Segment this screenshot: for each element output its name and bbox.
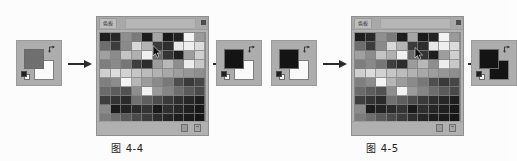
- swatch-cell[interactable]: [184, 78, 195, 87]
- swatch-cell[interactable]: [153, 87, 164, 96]
- swatch-cell[interactable]: [366, 78, 377, 87]
- swatch-cell[interactable]: [184, 51, 195, 60]
- swatch-cell[interactable]: [111, 60, 122, 69]
- swatch-cell[interactable]: [387, 69, 398, 78]
- swatch-cell[interactable]: [408, 87, 419, 96]
- swatch-cell[interactable]: [439, 33, 450, 42]
- swatch-cell[interactable]: [387, 33, 398, 42]
- swatch-cell[interactable]: [142, 78, 153, 87]
- swatch-cell[interactable]: [111, 96, 122, 105]
- swatch-cell[interactable]: [174, 42, 185, 51]
- swatch-cell[interactable]: [387, 78, 398, 87]
- swatch-cell[interactable]: [184, 69, 195, 78]
- swatch-cell[interactable]: [439, 87, 450, 96]
- swatches-panel[interactable]: 色板: [96, 16, 209, 136]
- swatch-cell[interactable]: [376, 51, 387, 60]
- swatch-cell[interactable]: [132, 51, 143, 60]
- swatch-cell[interactable]: [132, 96, 143, 105]
- swatch-cell[interactable]: [408, 78, 419, 87]
- new-swatch-icon[interactable]: [181, 124, 188, 132]
- swatch-cell[interactable]: [153, 69, 164, 78]
- swatch-grid[interactable]: [354, 32, 461, 133]
- swatch-cell[interactable]: [355, 51, 366, 60]
- swap-colors-icon[interactable]: [303, 45, 312, 54]
- swatch-cell[interactable]: [163, 87, 174, 96]
- default-colors-icon[interactable]: [21, 71, 30, 80]
- swatch-cell[interactable]: [111, 69, 122, 78]
- swatch-cell[interactable]: [111, 105, 122, 114]
- swatch-cell[interactable]: [355, 96, 366, 105]
- swatch-cell[interactable]: [100, 105, 111, 114]
- swatch-cell[interactable]: [142, 87, 153, 96]
- swatch-cell[interactable]: [397, 51, 408, 60]
- swatch-cell[interactable]: [450, 33, 461, 42]
- swatch-cell[interactable]: [429, 33, 440, 42]
- swatch-cell[interactable]: [163, 69, 174, 78]
- input-color-picker-thumbnail[interactable]: [271, 40, 317, 86]
- swatch-cell[interactable]: [429, 60, 440, 69]
- default-colors-icon[interactable]: [276, 71, 285, 80]
- swatch-cell[interactable]: [132, 78, 143, 87]
- swatch-cell[interactable]: [450, 96, 461, 105]
- swatch-cell[interactable]: [195, 42, 206, 51]
- swatch-cell[interactable]: [355, 69, 366, 78]
- swatch-cell[interactable]: [163, 42, 174, 51]
- swatch-cell[interactable]: [100, 87, 111, 96]
- swatch-cell[interactable]: [429, 69, 440, 78]
- swatch-cell[interactable]: [387, 42, 398, 51]
- swatch-cell[interactable]: [439, 42, 450, 51]
- swatch-cell[interactable]: [439, 60, 450, 69]
- swatch-cell[interactable]: [408, 60, 419, 69]
- swatch-cell[interactable]: [355, 105, 366, 114]
- swatch-cell[interactable]: [142, 105, 153, 114]
- swatch-cell[interactable]: [366, 96, 377, 105]
- swatch-cell[interactable]: [121, 42, 132, 51]
- swatch-cell[interactable]: [142, 69, 153, 78]
- swatch-cell[interactable]: [418, 96, 429, 105]
- swatch-cell[interactable]: [376, 96, 387, 105]
- swap-colors-icon[interactable]: [503, 45, 512, 54]
- swatch-cell[interactable]: [387, 96, 398, 105]
- tab-swatches[interactable]: 色板: [99, 18, 117, 28]
- swatch-cell[interactable]: [397, 33, 408, 42]
- swatch-cell[interactable]: [132, 87, 143, 96]
- swatch-cell[interactable]: [153, 42, 164, 51]
- swatch-cell[interactable]: [163, 60, 174, 69]
- swatch-cell[interactable]: [195, 105, 206, 114]
- swatch-cell[interactable]: [184, 105, 195, 114]
- swatch-cell[interactable]: [163, 96, 174, 105]
- swatch-cell[interactable]: [376, 78, 387, 87]
- swatch-cell[interactable]: [397, 42, 408, 51]
- panel-menu-icon[interactable]: [201, 20, 206, 25]
- swatch-cell[interactable]: [397, 78, 408, 87]
- swatch-cell[interactable]: [366, 51, 377, 60]
- swatch-cell[interactable]: [408, 33, 419, 42]
- foreground-color-swatch[interactable]: [224, 49, 244, 69]
- swatch-cell[interactable]: [376, 60, 387, 69]
- swatch-cell[interactable]: [366, 87, 377, 96]
- input-color-picker-thumbnail[interactable]: [16, 40, 62, 86]
- swatch-cell[interactable]: [163, 33, 174, 42]
- swatch-cell[interactable]: [418, 78, 429, 87]
- swatch-cell[interactable]: [195, 51, 206, 60]
- swatch-cell[interactable]: [153, 105, 164, 114]
- swatch-cell[interactable]: [376, 33, 387, 42]
- swatch-cell[interactable]: [397, 105, 408, 114]
- swatch-cell[interactable]: [195, 78, 206, 87]
- swatch-cell[interactable]: [153, 60, 164, 69]
- swatch-cell[interactable]: [174, 87, 185, 96]
- panel-menu-icon[interactable]: [456, 20, 461, 25]
- swatch-cell[interactable]: [142, 42, 153, 51]
- swatch-cell[interactable]: [174, 78, 185, 87]
- swatch-cell[interactable]: [195, 96, 206, 105]
- swatch-cell[interactable]: [418, 87, 429, 96]
- swatch-cell[interactable]: [366, 105, 377, 114]
- swatch-cell[interactable]: [429, 96, 440, 105]
- swatch-cell[interactable]: [121, 51, 132, 60]
- swatch-cell[interactable]: [121, 60, 132, 69]
- swatch-cell[interactable]: [142, 33, 153, 42]
- swatch-cell[interactable]: [184, 96, 195, 105]
- swatch-cell[interactable]: [439, 96, 450, 105]
- new-swatch-icon[interactable]: [436, 124, 443, 132]
- swatch-cell[interactable]: [174, 69, 185, 78]
